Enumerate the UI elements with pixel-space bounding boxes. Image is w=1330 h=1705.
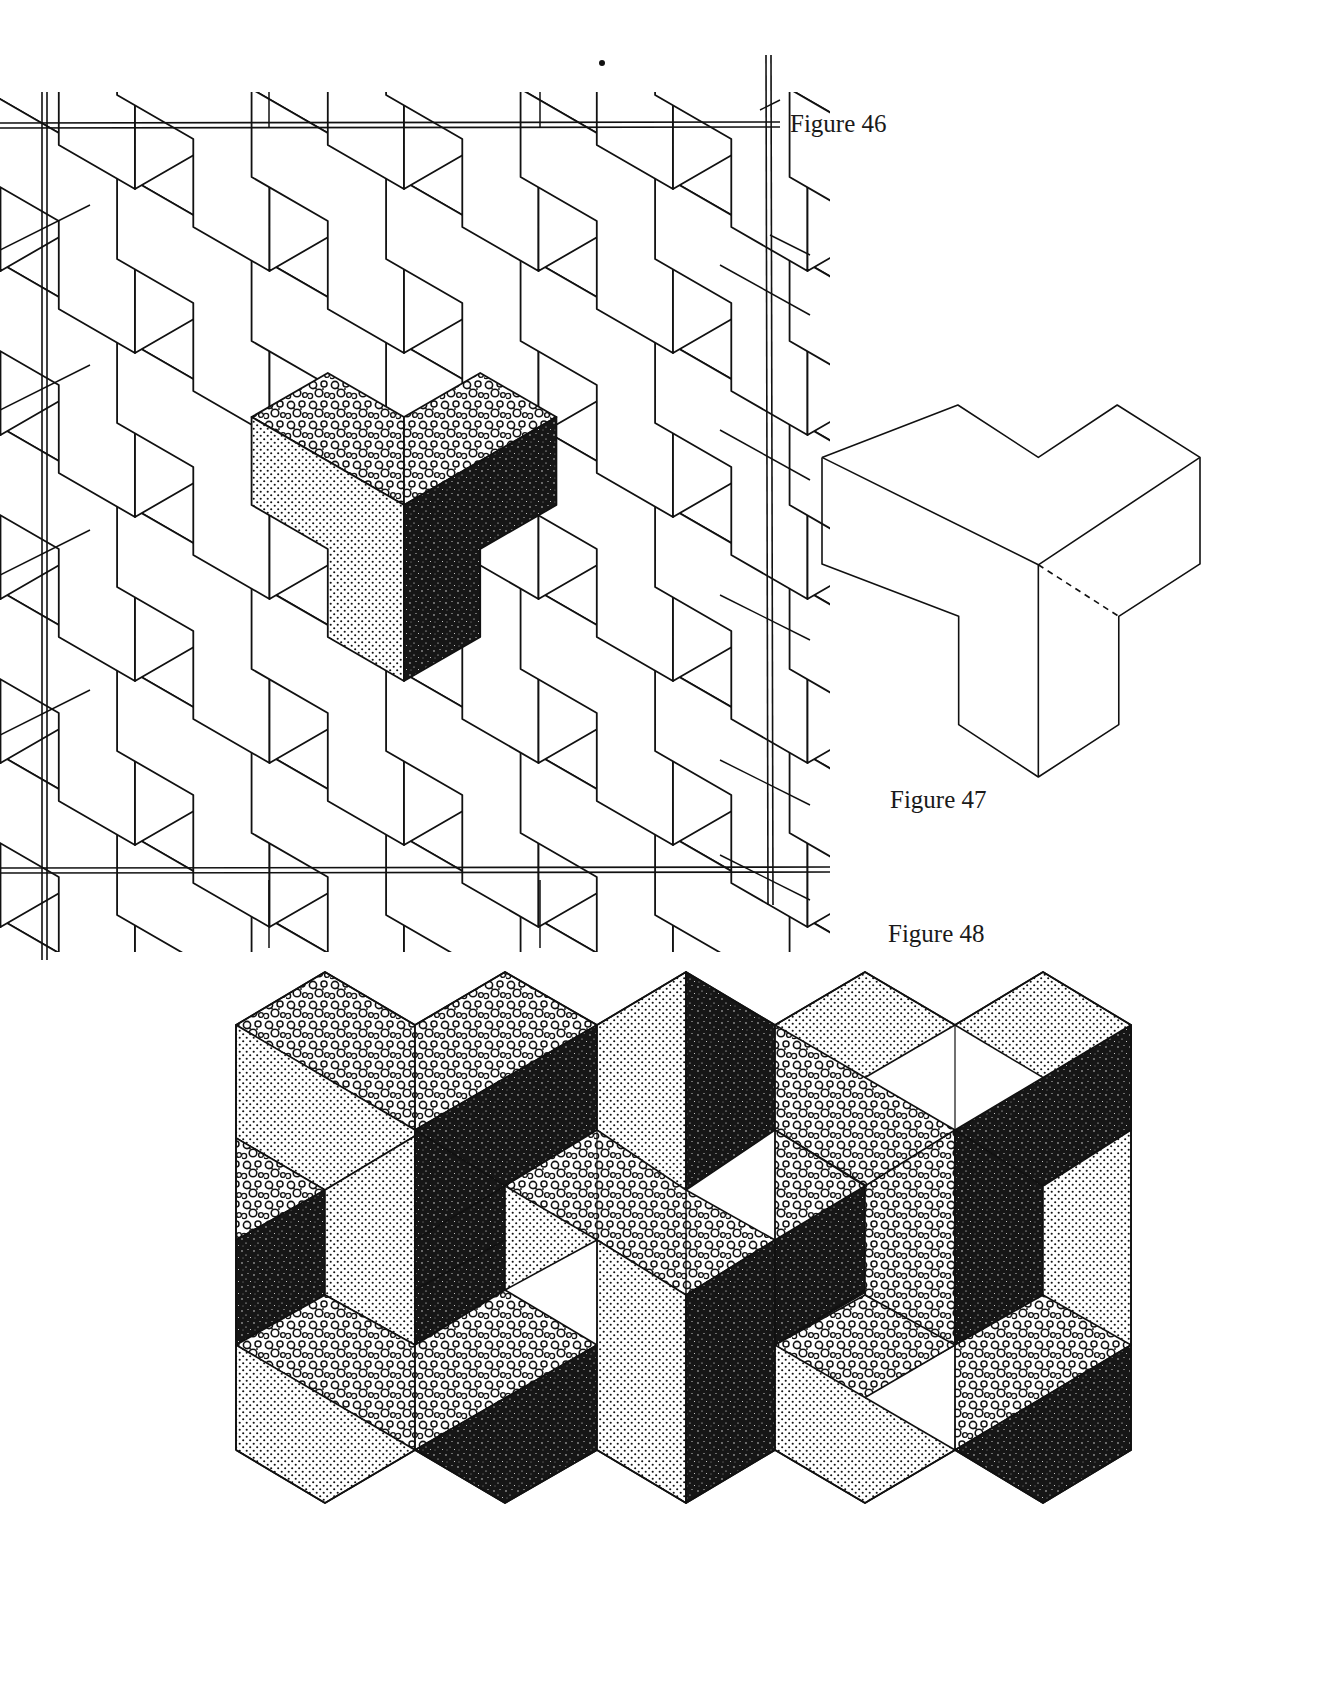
figure-47 — [810, 400, 1230, 790]
figure-47-caption: Figure 47 — [890, 786, 987, 814]
figure-46-drawing — [0, 50, 860, 980]
figure-48-drawing — [225, 960, 1145, 1550]
figure-48-caption: Figure 48 — [888, 920, 985, 948]
figure-46 — [0, 50, 860, 980]
figure-48 — [225, 960, 1145, 1550]
figure-47-drawing — [810, 400, 1230, 790]
figure-46-caption: Figure 46 — [790, 110, 887, 138]
